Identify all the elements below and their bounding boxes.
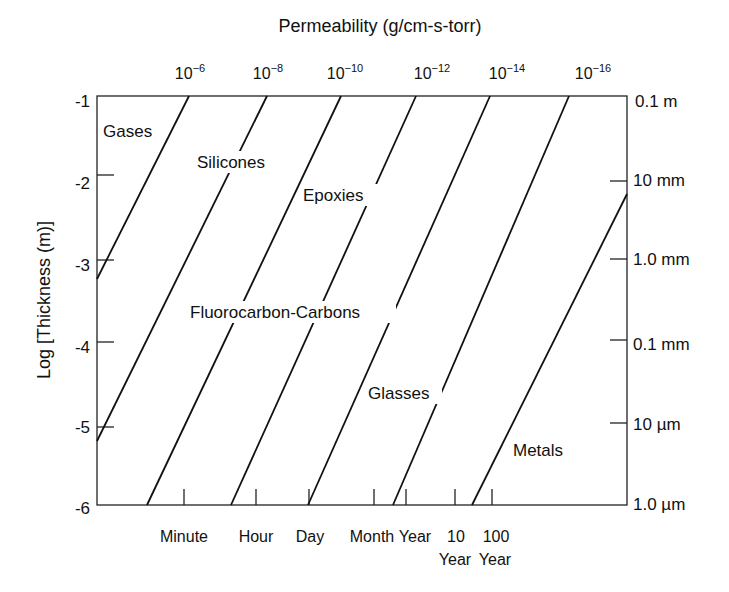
right-axis-labels: 0.1 m 10 mm 1.0 mm 0.1 mm 10 µm 1.0 µm bbox=[633, 92, 690, 514]
left-tick-label: -4 bbox=[75, 338, 90, 357]
top-tick-label: 10−8 bbox=[253, 62, 283, 82]
right-tick-label: 0.1 mm bbox=[633, 335, 690, 354]
line-1e-8 bbox=[97, 96, 267, 441]
top-tick-label: 10−14 bbox=[489, 62, 525, 82]
bottom-label: Year bbox=[399, 528, 432, 545]
bottom-label: Hour bbox=[239, 528, 274, 545]
bottom-axis-ticks bbox=[184, 489, 492, 505]
bottom-label: 100 bbox=[483, 528, 510, 545]
left-tick-label: -3 bbox=[75, 256, 90, 275]
right-tick-label: 0.1 m bbox=[635, 92, 678, 111]
top-axis-labels: 10−6 10−8 10−10 10−12 10−14 10−16 bbox=[175, 62, 611, 82]
left-tick-label: -2 bbox=[75, 174, 90, 193]
top-tick-label: 10−10 bbox=[327, 62, 363, 82]
material-labels: Gases Silicones Epoxies Fluorocarbon-Car… bbox=[101, 120, 563, 460]
top-tick-label: 10−12 bbox=[414, 62, 450, 82]
y-axis-title: Log [Thickness (m)] bbox=[34, 221, 54, 379]
right-tick-label: 1.0 µm bbox=[633, 495, 685, 514]
bottom-label: Month bbox=[350, 528, 394, 545]
label-metals: Metals bbox=[513, 441, 563, 460]
label-fluorocarbon-carbons: Fluorocarbon-Carbons bbox=[190, 303, 360, 322]
bottom-label: Year bbox=[439, 551, 472, 568]
left-axis-ticks bbox=[97, 175, 114, 427]
label-gases: Gases bbox=[103, 122, 152, 141]
left-tick-label: -1 bbox=[75, 92, 90, 111]
chart-title: Permeability (g/cm-s-torr) bbox=[278, 16, 481, 36]
permeability-chart: Permeability (g/cm-s-torr) 10−6 10−8 10−… bbox=[0, 0, 729, 592]
left-axis-labels: -1 -2 -3 -4 -5 -6 bbox=[75, 92, 90, 518]
bottom-label: Day bbox=[296, 528, 324, 545]
label-epoxies: Epoxies bbox=[303, 186, 363, 205]
line-1e-14 bbox=[308, 96, 490, 505]
left-tick-label: -5 bbox=[75, 418, 90, 437]
right-tick-label: 10 µm bbox=[633, 415, 681, 434]
left-tick-label: -6 bbox=[75, 499, 90, 518]
bottom-label: Year bbox=[479, 551, 512, 568]
top-tick-label: 10−16 bbox=[575, 62, 611, 82]
label-silicones: Silicones bbox=[197, 153, 265, 172]
top-tick-label: 10−6 bbox=[175, 62, 205, 82]
label-glasses: Glasses bbox=[368, 384, 429, 403]
bottom-label: Minute bbox=[160, 528, 208, 545]
bottom-label: 10 bbox=[447, 528, 465, 545]
right-axis-ticks bbox=[610, 181, 627, 423]
right-tick-label: 10 mm bbox=[633, 171, 685, 190]
bottom-axis-labels: Minute Hour Day Month Year 10 100 Year Y… bbox=[160, 528, 512, 568]
right-tick-label: 1.0 mm bbox=[633, 250, 690, 269]
